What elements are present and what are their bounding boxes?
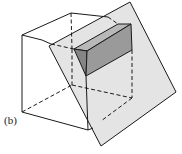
hidden-bottom-back-edge [22, 85, 72, 112]
cube-top-front-edge [22, 35, 51, 44]
cube-bottom-front-edge [22, 112, 88, 130]
cube-plane-diagram [0, 0, 182, 154]
figure-label: (b) [4, 114, 17, 126]
